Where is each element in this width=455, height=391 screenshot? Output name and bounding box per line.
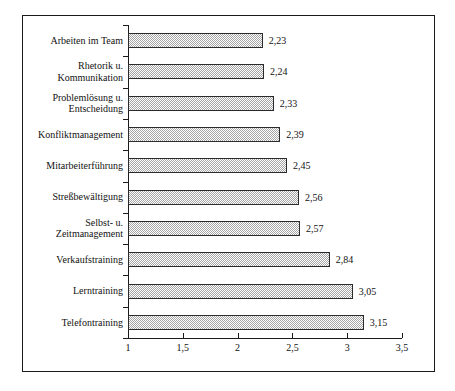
- bar[interactable]: [128, 190, 299, 205]
- bar-row: Arbeiten im Team2,23: [23, 25, 436, 56]
- bar-value-label: 2,56: [305, 182, 323, 213]
- category-label: Rhetorik u.Kommunikation: [57, 56, 123, 87]
- category-label-line: Problemlösung u.: [52, 92, 123, 104]
- bar[interactable]: [128, 284, 353, 299]
- bar-value-label: 2,23: [269, 25, 287, 56]
- category-label-line: Konfliktmanagement: [38, 129, 123, 141]
- category-label: Streßbewältigung: [52, 182, 123, 213]
- bar-value-label: 2,45: [293, 150, 311, 181]
- bar[interactable]: [128, 33, 263, 48]
- bar-value-label: 2,84: [336, 244, 354, 275]
- category-label: Konfliktmanagement: [38, 119, 123, 150]
- bar[interactable]: [128, 158, 287, 173]
- category-label: Verkaufstraining: [56, 244, 123, 275]
- category-label-line: Telefontraining: [62, 317, 124, 329]
- category-label-line: Zeitmanagement: [56, 228, 123, 240]
- bar[interactable]: [128, 64, 264, 79]
- bar-row: Lerntraining3,05: [23, 275, 436, 306]
- bar-row: Rhetorik u.Kommunikation2,24: [23, 56, 436, 87]
- x-axis-tick-label: 1: [126, 342, 131, 353]
- category-label-line: Entscheidung: [69, 103, 123, 115]
- category-label: Problemlösung u.Entscheidung: [52, 88, 123, 119]
- category-label-line: Verkaufstraining: [56, 254, 123, 266]
- bar-value-label: 2,39: [286, 119, 304, 150]
- bar-value-label: 3,15: [370, 307, 388, 338]
- category-label-line: Streßbewältigung: [52, 191, 123, 203]
- category-label: Telefontraining: [62, 307, 124, 338]
- x-axis-tick-label: 2,5: [286, 342, 299, 353]
- bar[interactable]: [128, 127, 280, 142]
- bar-value-label: 2,24: [270, 56, 288, 87]
- bar-value-label: 2,57: [306, 213, 324, 244]
- bar-row: Telefontraining3,15: [23, 307, 436, 338]
- bar[interactable]: [128, 221, 300, 236]
- bar[interactable]: [128, 252, 330, 267]
- plot-area: Arbeiten im Team2,23Rhetorik u.Kommunika…: [23, 16, 436, 373]
- category-label: Arbeiten im Team: [51, 25, 123, 56]
- x-axis-tick-label: 2: [235, 342, 240, 353]
- bar-row: Selbst- u.Zeitmanagement2,57: [23, 213, 436, 244]
- category-label: Lerntraining: [73, 275, 123, 306]
- bar-row: Konfliktmanagement2,39: [23, 119, 436, 150]
- x-axis-tick-label: 1,5: [177, 342, 190, 353]
- bar[interactable]: [128, 96, 274, 111]
- bar-value-label: 2,33: [280, 88, 298, 119]
- bar-row: Verkaufstraining2,84: [23, 244, 436, 275]
- bar-row: Mitarbeiterführung2,45: [23, 150, 436, 181]
- bar-row: Problemlösung u.Entscheidung2,33: [23, 88, 436, 119]
- category-label-line: Selbst- u.: [85, 217, 123, 229]
- chart-frame: Arbeiten im Team2,23Rhetorik u.Kommunika…: [22, 15, 435, 372]
- bar-value-label: 3,05: [359, 275, 377, 306]
- category-label-line: Kommunikation: [57, 72, 123, 84]
- bar-row: Streßbewältigung2,56: [23, 182, 436, 213]
- category-label-line: Rhetorik u.: [78, 60, 123, 72]
- category-label: Selbst- u.Zeitmanagement: [56, 213, 123, 244]
- x-axis-line: [128, 338, 402, 339]
- category-label-line: Mitarbeiterführung: [46, 160, 123, 172]
- x-axis-tick-label: 3,5: [396, 342, 409, 353]
- y-axis-tick: [123, 338, 128, 339]
- bar[interactable]: [128, 315, 364, 330]
- x-axis-tick-label: 3: [345, 342, 350, 353]
- category-label-line: Lerntraining: [73, 285, 123, 297]
- category-label: Mitarbeiterführung: [46, 150, 123, 181]
- category-label-line: Arbeiten im Team: [51, 35, 123, 47]
